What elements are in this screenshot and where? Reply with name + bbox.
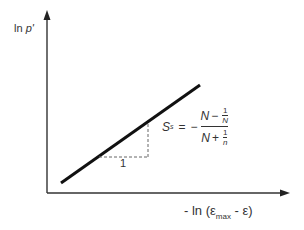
eq-equals: =: [179, 120, 186, 134]
x-label-prefix: - ln (: [184, 203, 210, 218]
eq-den-frac-num: 1: [223, 128, 227, 137]
y-axis-arrow-icon: [44, 10, 51, 20]
y-axis-label: ln p': [14, 22, 34, 34]
eq-lhs-sub: s: [170, 123, 174, 130]
slope-run-label: 1: [120, 157, 126, 169]
eq-num-frac-den: N: [222, 116, 228, 125]
eq-num-N: N: [201, 109, 210, 123]
x-label-suffix: ): [248, 203, 252, 218]
x-label-mid: -: [231, 203, 243, 218]
slope-equation: Ss = − N − 1 N N + 1 n: [162, 106, 228, 147]
eq-den-N: N: [201, 131, 210, 145]
eq-num-minifrac: 1 N: [222, 106, 228, 125]
eq-fraction-bar: [201, 126, 228, 127]
eq-denominator: N + 1 n: [201, 128, 227, 147]
eq-fraction: N − 1 N N + 1 n: [201, 106, 228, 147]
diagram-canvas: [0, 0, 304, 230]
eq-numerator: N − 1 N: [201, 106, 228, 125]
eq-num-op: −: [211, 109, 218, 123]
eq-minus: −: [191, 120, 198, 134]
eq-lhs: S: [162, 120, 170, 134]
eq-den-minifrac: 1 n: [223, 128, 227, 147]
x-axis-label: - ln (εmax - ε): [184, 203, 253, 221]
eq-num-frac-num: 1: [223, 106, 227, 115]
x-label-sub: max: [216, 212, 231, 221]
x-axis-arrow-icon: [280, 190, 290, 197]
eq-den-op: +: [212, 131, 219, 145]
y-label-var: p': [26, 22, 34, 34]
eq-den-frac-den: n: [223, 138, 227, 147]
y-label-ln: ln: [14, 22, 26, 34]
